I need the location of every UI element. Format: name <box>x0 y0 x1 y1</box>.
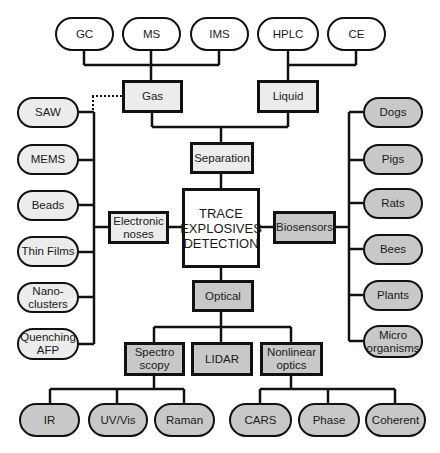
ir-node: IR <box>19 403 80 437</box>
microorganisms-node: Micro organisms <box>363 325 423 358</box>
saw-label: SAW <box>35 106 61 119</box>
pigs-node: Pigs <box>363 144 423 175</box>
optical-label: Optical <box>205 290 241 303</box>
phase-node: Phase <box>298 403 360 437</box>
trace-explosives-detection-node: TRACE EXPLOSIVES DETECTION <box>182 188 260 268</box>
phase-label: Phase <box>313 414 346 427</box>
trace-explosives-diagram: GC MS IMS HPLC CE Gas Liquid Separation … <box>0 0 440 453</box>
hplc-label: HPLC <box>273 28 304 41</box>
plants-node: Plants <box>363 280 423 311</box>
quenching-afp-node: Quenching AFP <box>17 328 79 360</box>
raman-label: Raman <box>166 414 203 427</box>
center-label: TRACE EXPLOSIVES DETECTION <box>180 206 262 251</box>
nanoclusters-label: Nano- clusters <box>28 285 68 311</box>
coherent-node: Coherent <box>365 403 426 437</box>
spectroscopy-node: Spectro scopy <box>124 342 185 376</box>
uv-vis-node: UV/Vis <box>88 403 148 437</box>
separation-node: Separation <box>190 142 254 174</box>
lidar-node: LIDAR <box>191 342 253 376</box>
quenching-afp-label: Quenching AFP <box>20 331 76 357</box>
lidar-label: LIDAR <box>205 353 239 366</box>
cars-node: CARS <box>229 403 292 437</box>
gas-label: Gas <box>142 90 163 103</box>
beads-node: Beads <box>17 190 79 221</box>
rats-label: Rats <box>381 197 405 210</box>
liquid-node: Liquid <box>257 80 319 113</box>
ce-node: CE <box>327 17 386 51</box>
ir-label: IR <box>44 414 56 427</box>
cars-label: CARS <box>245 414 277 427</box>
ims-node: IMS <box>190 17 249 51</box>
saw-node: SAW <box>17 97 79 128</box>
nonlinear-optics-node: Nonlinear optics <box>260 342 323 376</box>
separation-label: Separation <box>194 152 250 165</box>
plants-label: Plants <box>377 289 409 302</box>
dogs-label: Dogs <box>380 106 407 119</box>
hplc-node: HPLC <box>257 17 319 51</box>
thin-films-node: Thin Films <box>17 236 79 267</box>
ms-label: MS <box>143 28 160 41</box>
microorganisms-label: Micro organisms <box>366 329 419 355</box>
ims-label: IMS <box>209 28 229 41</box>
electronic-noses-label: Electronic noses <box>111 215 166 241</box>
liquid-label: Liquid <box>273 90 304 103</box>
biosensors-label: Biosensors <box>276 221 333 234</box>
pigs-label: Pigs <box>382 153 404 166</box>
uv-vis-label: UV/Vis <box>101 414 136 427</box>
biosensors-node: Biosensors <box>273 211 336 244</box>
thin-films-label: Thin Films <box>21 245 74 258</box>
coherent-label: Coherent <box>372 414 419 427</box>
gc-label: GC <box>76 28 93 41</box>
beads-label: Beads <box>32 199 65 212</box>
nonlinear-optics-label: Nonlinear optics <box>263 346 320 372</box>
raman-node: Raman <box>154 403 215 437</box>
rats-node: Rats <box>363 188 423 219</box>
bees-node: Bees <box>363 234 423 265</box>
ms-node: MS <box>122 17 181 51</box>
gas-node: Gas <box>122 80 183 113</box>
mems-label: MEMS <box>31 153 66 166</box>
dogs-node: Dogs <box>363 97 423 128</box>
optical-node: Optical <box>192 280 254 312</box>
ce-label: CE <box>349 28 365 41</box>
nanoclusters-node: Nano- clusters <box>17 282 79 313</box>
bees-label: Bees <box>380 243 406 256</box>
gc-node: GC <box>55 17 114 51</box>
electronic-noses-node: Electronic noses <box>108 211 169 244</box>
spectroscopy-label: Spectro scopy <box>133 346 176 372</box>
mems-node: MEMS <box>17 144 79 175</box>
